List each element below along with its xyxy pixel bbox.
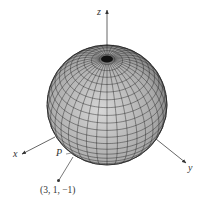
y-axis [156, 139, 186, 163]
north-pole-cap [101, 56, 113, 63]
point-p-label: P [56, 147, 62, 158]
sphere-diagram [0, 0, 204, 206]
external-point-label: (3, 1, −1) [40, 185, 75, 195]
segment-p-to-point [59, 157, 73, 180]
z-axis-label: z [97, 6, 101, 17]
external-point-dot [57, 179, 60, 182]
x-axis-label: x [13, 148, 17, 159]
y-axis-label: y [188, 162, 192, 173]
x-axis [22, 137, 55, 154]
